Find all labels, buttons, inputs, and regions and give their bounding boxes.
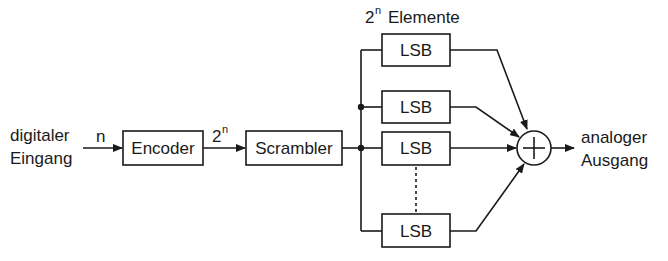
output-label-line1: analoger: [581, 128, 648, 147]
header-label: 2 n Elemente: [365, 4, 460, 27]
lsb-label: LSB: [400, 222, 432, 241]
lsb-label: LSB: [400, 139, 432, 158]
output-label-line2: Ausgang: [581, 151, 648, 170]
lsb2-to-sum-arrow: [450, 107, 519, 137]
edge-width-base: 2: [212, 127, 221, 146]
dac-block-diagram: 2 n Elemente digitaler Eingang n Encoder…: [0, 0, 668, 261]
encoder-block: Encoder: [123, 131, 203, 165]
header-exp: n: [375, 4, 381, 16]
lsb-block-3: LSB: [382, 132, 450, 165]
lsb1-to-sum-arrow: [450, 50, 527, 129]
lsb-block-1: LSB: [382, 34, 450, 66]
header-text: Elemente: [388, 8, 460, 27]
input-label-line2: Eingang: [10, 149, 72, 168]
header-base: 2: [365, 8, 374, 27]
summing-junction: [517, 131, 551, 165]
scrambler-label: Scrambler: [255, 139, 333, 158]
input-width-label: n: [96, 127, 105, 146]
input-label-line1: digitaler: [10, 126, 70, 145]
lsb4-to-sum-arrow: [450, 164, 524, 231]
encoder-label: Encoder: [131, 139, 195, 158]
lsb-block-4: LSB: [382, 214, 450, 247]
lsb-block-2: LSB: [382, 91, 450, 123]
lsb-label: LSB: [400, 41, 432, 60]
edge-width-exp: n: [222, 123, 228, 135]
scrambler-block: Scrambler: [246, 131, 342, 165]
lsb-label: LSB: [400, 98, 432, 117]
